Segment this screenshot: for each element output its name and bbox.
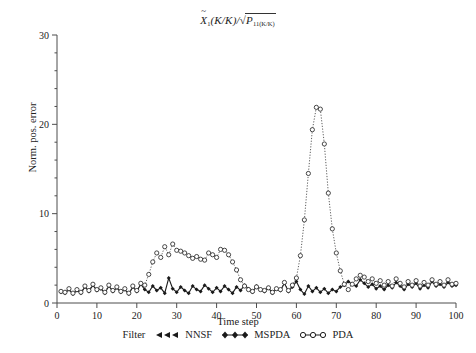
data-point-circle-open [382,283,386,287]
data-point-circle-open [147,272,151,276]
data-point-circle-open [446,278,450,282]
data-point-circle-open [426,283,430,287]
data-point-circle-open [171,242,175,246]
data-point-circle-open [218,247,222,251]
data-point-circle-open [298,254,302,258]
data-point-circle-open [322,142,326,146]
data-point-circle-open [222,248,226,252]
data-point-circle-open [310,128,314,132]
data-point-circle-open [167,253,171,257]
diamond-filled-icon [221,330,249,340]
plot-area: 01020300102030405060708090100 [0,0,476,353]
data-point-circle-open [159,255,163,259]
triangle-left-icon [154,330,180,340]
data-point-circle-open [398,281,402,285]
data-point-circle-open [282,280,286,284]
data-point-circle-open [306,171,310,175]
data-point-circle-open [226,253,230,257]
data-point-circle-open [454,281,458,285]
circle-open-icon [299,330,327,340]
data-point-circle-open [442,283,446,287]
x-axis-label: Time step [0,316,476,327]
data-point-circle-open [370,277,374,281]
data-point-circle-open [71,291,75,295]
data-point-circle-open [230,260,234,264]
data-point-circle-open [254,285,258,289]
data-point-circle-open [183,251,187,255]
data-point-circle-open [362,275,366,279]
data-point-circle-open [91,282,95,286]
data-point-circle-open [262,288,266,292]
data-point-circle-open [438,279,442,283]
data-point-circle-open [234,268,238,272]
legend-item-mspda: MSPDA [221,330,290,341]
data-point-circle-open [350,282,354,286]
y-axis-label: Norm. pos. error [27,78,38,198]
data-point-circle-open [131,284,135,288]
data-point-circle-open [434,282,438,286]
data-point-circle-open [390,284,394,288]
data-point-circle-open [270,290,274,294]
data-point-circle-open [155,251,159,255]
y-tick-label: 10 [39,208,49,219]
data-point-circle-open [402,285,406,289]
data-point-circle-open [63,290,67,294]
y-tick-label: 20 [39,119,49,130]
data-point-circle-open [127,291,131,295]
data-point-circle-open [294,276,298,280]
legend-item-nnsf: NNSF [154,330,212,341]
data-point-circle-open [346,288,350,292]
y-tick-label: 30 [39,30,49,41]
data-point-circle-open [195,254,199,258]
y-tick-label: 0 [44,298,49,309]
legend-label-mspda: MSPDA [254,330,290,341]
legend-prefix-label: Filter [123,330,146,341]
data-point-circle-open [87,288,91,292]
legend-label-nnsf: NNSF [185,330,212,341]
data-point-circle-open [318,107,322,111]
data-point-circle-open [238,278,242,282]
series-markers-pda [59,105,458,295]
data-point-circle-open [250,289,254,293]
data-point-circle-open [79,290,83,294]
data-point-circle-open [107,283,111,287]
data-point-circle-open [302,218,306,222]
data-point-circle-open [266,286,270,290]
data-point-circle-open [59,289,63,293]
data-point-circle-open [354,277,358,281]
data-point-circle-open [430,278,434,282]
data-point-circle-open [386,279,390,283]
data-point-circle-open [111,288,115,292]
data-point-circle-open [422,280,426,284]
data-point-circle-open [67,287,71,291]
data-point-circle-open [338,269,342,273]
data-point-circle-open [286,288,290,292]
data-point-circle-open [290,283,294,287]
data-point-diamond-filled [167,276,171,280]
data-point-circle-open [211,253,215,257]
data-point-circle-open [163,245,167,249]
legend-label-pda: PDA [332,330,353,341]
data-point-circle-open [274,287,278,291]
data-point-circle-open [143,283,147,287]
data-point-circle-open [406,279,410,283]
data-point-circle-open [394,277,398,281]
data-point-circle-open [366,279,370,283]
data-point-circle-open [242,284,246,288]
data-point-circle-open [203,258,207,262]
data-point-circle-open [115,285,119,289]
data-point-circle-open [103,290,107,294]
data-point-circle-open [374,281,378,285]
chart-legend: Filter NNSF MSPDA [0,330,476,341]
data-point-circle-open [334,251,338,255]
data-point-circle-open [258,288,262,292]
data-point-circle-open [83,284,87,288]
data-point-circle-open [187,254,191,258]
data-point-circle-open [326,191,330,195]
data-point-circle-open [410,283,414,287]
data-point-circle-open [199,257,203,261]
data-point-circle-open [418,284,422,288]
data-point-circle-open [342,282,346,286]
data-point-circle-open [414,279,418,283]
data-point-circle-open [119,289,123,293]
